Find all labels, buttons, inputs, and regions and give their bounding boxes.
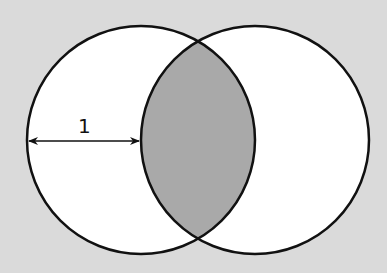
radius-label: 1 — [78, 114, 91, 138]
venn-diagram — [0, 0, 387, 273]
